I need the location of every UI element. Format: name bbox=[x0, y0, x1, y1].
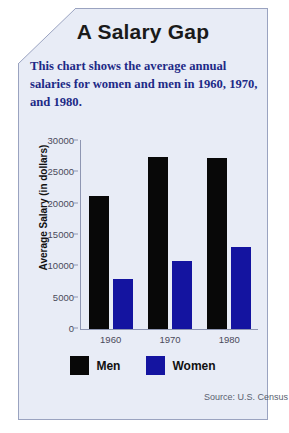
y-axis-tick-mark bbox=[74, 296, 78, 297]
bar-women-1960 bbox=[113, 279, 133, 329]
legend-item-men: Men bbox=[70, 356, 120, 375]
chart-description: This chart shows the average annual sala… bbox=[30, 58, 258, 112]
bar-women-1970 bbox=[172, 261, 192, 329]
x-axis-tick-label: 1970 bbox=[141, 334, 199, 345]
bar-men-1980 bbox=[207, 158, 227, 329]
x-axis-tick-label: 1980 bbox=[200, 334, 258, 345]
y-axis-tick-mark bbox=[74, 202, 78, 203]
legend-label: Men bbox=[96, 359, 120, 373]
legend-item-women: Women bbox=[146, 356, 215, 375]
legend-swatch-women bbox=[146, 356, 165, 375]
y-axis-tick-mark bbox=[74, 328, 78, 329]
y-axis-tick-label: 10000 bbox=[48, 260, 74, 271]
bar-men-1960 bbox=[89, 196, 109, 329]
y-axis-tick-mark bbox=[74, 140, 78, 141]
y-axis-tick-label: 20000 bbox=[48, 197, 74, 208]
legend-label: Women bbox=[172, 359, 215, 373]
y-axis-tick-mark bbox=[74, 171, 78, 172]
x-axis-tick-label: 1960 bbox=[82, 334, 140, 345]
y-axis-tick-label: 5000 bbox=[53, 291, 74, 302]
y-axis-tick-mark bbox=[74, 234, 78, 235]
y-axis-ticks: 050001000015000200002500030000 bbox=[38, 140, 78, 330]
bar-group bbox=[148, 141, 192, 329]
legend-swatch-men bbox=[70, 356, 89, 375]
y-axis-tick-label: 25000 bbox=[48, 166, 74, 177]
y-axis-tick-label: 30000 bbox=[48, 135, 74, 146]
chart-axes: 196019701980 bbox=[80, 140, 258, 330]
bar-group bbox=[207, 141, 251, 329]
chart-legend: MenWomen bbox=[24, 356, 262, 375]
chart-plot-area: Average Salary (in dollars) 050001000015… bbox=[24, 140, 262, 340]
source-note: Source: U.S. Census bbox=[204, 392, 288, 402]
y-axis-tick-mark bbox=[74, 265, 78, 266]
bar-group bbox=[89, 141, 133, 329]
bar-men-1970 bbox=[148, 157, 168, 329]
y-axis-tick-label: 15000 bbox=[48, 229, 74, 240]
page-title: A Salary Gap bbox=[18, 20, 268, 44]
bar-women-1980 bbox=[231, 247, 251, 329]
